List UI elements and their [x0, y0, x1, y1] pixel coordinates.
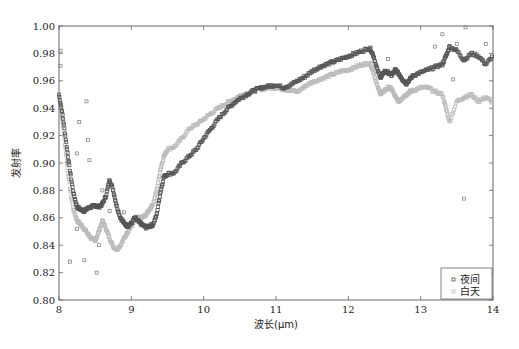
y-tick-label: 1.00: [33, 21, 55, 32]
y-tick-label: 0.92: [33, 130, 55, 141]
y-axis-ticks: 0.800.820.840.860.880.900.920.940.960.98…: [33, 21, 493, 306]
y-tick-label: 0.90: [33, 158, 55, 169]
x-tick-label: 14: [487, 304, 500, 315]
y-tick-label: 0.84: [33, 240, 55, 251]
y-tick-label: 0.98: [33, 48, 55, 59]
x-tick-label: 9: [128, 304, 134, 315]
x-tick-label: 10: [197, 304, 210, 315]
x-tick-label: 12: [342, 304, 355, 315]
y-tick-label: 0.96: [33, 75, 55, 86]
x-axis-ticks: 891011121314: [56, 26, 500, 315]
y-tick-label: 0.88: [33, 185, 55, 196]
y-axis-title: 发射率: [10, 148, 22, 178]
x-axis-title: 波长(μm): [254, 318, 298, 330]
y-tick-label: 0.80: [33, 295, 55, 306]
x-tick-label: 11: [270, 304, 283, 315]
x-tick-label: 13: [414, 304, 427, 315]
y-tick-label: 0.86: [33, 212, 55, 223]
legend-night-label: 夜间: [460, 273, 480, 285]
legend-day-label: 白天: [460, 285, 480, 297]
y-tick-label: 0.82: [33, 267, 55, 278]
emissivity-chart: 0.800.820.840.860.880.900.920.940.960.98…: [0, 0, 519, 349]
x-tick-label: 8: [56, 304, 62, 315]
series-night-points: [58, 45, 494, 231]
y-tick-label: 0.94: [33, 103, 55, 114]
legend: 夜间 白天: [441, 268, 492, 299]
